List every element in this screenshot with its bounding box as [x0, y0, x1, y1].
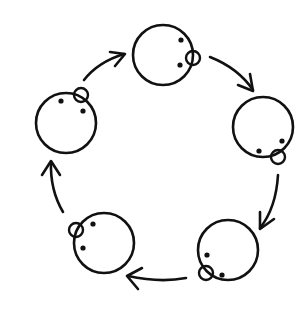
eye-dot-icon [178, 37, 183, 42]
arrow-left-to-top [84, 52, 125, 80]
arrow-shaft [84, 54, 124, 80]
diagram-canvas [0, 0, 306, 311]
head-top [133, 25, 200, 85]
arrowhead-icon [260, 212, 274, 229]
arrow-top-to-right [210, 57, 253, 91]
head-right [233, 97, 293, 164]
head-circle [74, 213, 134, 273]
ear-bump-icon [199, 266, 213, 280]
eye-dot-icon [204, 252, 209, 257]
head-circle [36, 93, 96, 153]
heads-layer [36, 25, 293, 280]
arrow-shaft [210, 57, 253, 90]
eye-dot-icon [219, 272, 224, 277]
eye-dot-icon [90, 221, 95, 226]
arrow-shaft [128, 276, 186, 280]
cycle-diagram [0, 0, 306, 311]
arrow-bottom-right-to-bottom-left [127, 268, 186, 289]
head-bottom-right [198, 220, 258, 280]
arrow-right-to-bottom-right [260, 175, 278, 229]
head-left [36, 88, 96, 153]
eye-dot-icon [80, 245, 85, 250]
eye-dot-icon [256, 148, 261, 153]
arrows-layer [42, 52, 278, 289]
head-circle [233, 97, 293, 157]
head-bottom-left [69, 213, 134, 273]
eye-dot-icon [58, 98, 63, 103]
head-circle [133, 25, 193, 85]
head-circle [198, 220, 258, 280]
eye-dot-icon [80, 108, 85, 113]
arrow-bottom-left-to-left [42, 161, 63, 212]
eye-dot-icon [279, 138, 284, 143]
eye-dot-icon [177, 62, 182, 67]
arrow-shaft [260, 175, 278, 228]
